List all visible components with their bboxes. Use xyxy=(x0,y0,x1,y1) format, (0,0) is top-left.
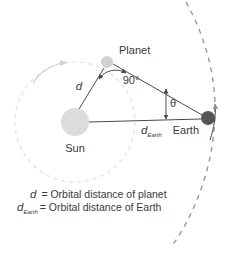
theta-angle-label: θ xyxy=(170,97,176,109)
planet-earth-line xyxy=(113,64,202,115)
sun-label: Sun xyxy=(65,142,85,154)
legend-text-earth: = Orbital distance of Earth xyxy=(40,201,162,213)
orbital-distance-diagram: Sun Planet Earth d 90° θ dEarth d= Orbit… xyxy=(0,0,242,268)
sun-body xyxy=(61,108,89,136)
earth-label: Earth xyxy=(173,124,199,136)
planet-body xyxy=(101,56,113,68)
legend-symbol-planet: d xyxy=(30,188,37,200)
legend-row-earth: dEarth= Orbital distance of Earth xyxy=(17,201,162,215)
planet-label: Planet xyxy=(119,44,150,56)
legend-subscript-earth: Earth xyxy=(23,209,38,215)
earth-distance-label: dEarth xyxy=(141,124,162,138)
earth-distance-subscript: Earth xyxy=(147,132,162,138)
diagram-canvas: Sun Planet Earth d 90° θ dEarth d= Orbit… xyxy=(0,0,242,268)
sun-earth-line xyxy=(89,119,201,122)
earth-body xyxy=(201,111,215,125)
sun-planet-line xyxy=(79,68,104,109)
planet-distance-label: d xyxy=(76,80,83,92)
planet-orbit-direction-arrow xyxy=(33,63,66,84)
right-angle-label: 90° xyxy=(123,74,140,86)
legend-text-planet: = Orbital distance of planet xyxy=(41,188,166,200)
legend-row-planet: d= Orbital distance of planet xyxy=(30,188,167,200)
